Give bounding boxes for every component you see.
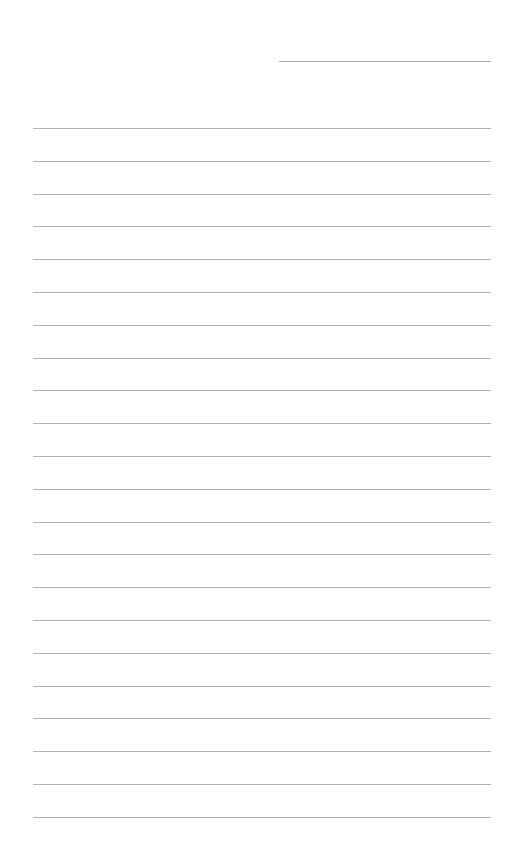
ruled-line xyxy=(33,259,491,260)
ruled-line xyxy=(33,751,491,752)
lined-paper-page xyxy=(0,0,519,853)
ruled-line xyxy=(33,587,491,588)
ruled-line xyxy=(33,161,491,162)
ruled-line xyxy=(33,292,491,293)
ruled-line xyxy=(33,128,491,129)
ruled-line xyxy=(33,358,491,359)
ruled-line xyxy=(33,325,491,326)
ruled-line xyxy=(33,718,491,719)
ruled-line xyxy=(33,522,491,523)
ruled-line xyxy=(33,489,491,490)
ruled-line xyxy=(33,194,491,195)
ruled-line xyxy=(33,653,491,654)
ruled-line xyxy=(33,226,491,227)
ruled-line xyxy=(33,817,491,818)
ruled-line xyxy=(33,390,491,391)
ruled-line xyxy=(33,620,491,621)
ruled-line xyxy=(33,686,491,687)
header-writing-line xyxy=(279,61,491,62)
ruled-line xyxy=(33,423,491,424)
ruled-line xyxy=(33,554,491,555)
ruled-line xyxy=(33,456,491,457)
ruled-line xyxy=(33,784,491,785)
